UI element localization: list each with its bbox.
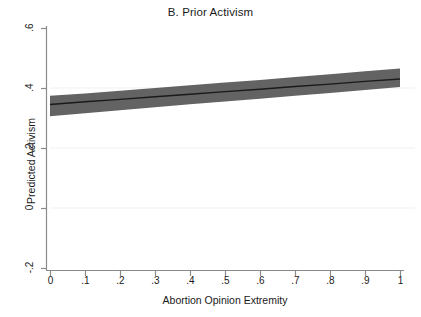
y-tick-label: .4 <box>24 75 35 101</box>
y-axis-ticks <box>41 29 47 269</box>
x-tick-label: .8 <box>319 275 343 286</box>
x-tick-label: .1 <box>74 275 98 286</box>
x-tick-label: 1 <box>389 275 413 286</box>
x-tick-label: .6 <box>249 275 273 286</box>
x-tick-label: .3 <box>144 275 168 286</box>
x-tick-label: .4 <box>179 275 203 286</box>
x-tick-label: 0 <box>39 275 63 286</box>
x-tick-label: .9 <box>354 275 378 286</box>
y-tick-label: .6 <box>24 15 35 41</box>
confidence-interval-band <box>50 69 400 117</box>
plot-area <box>0 0 421 317</box>
y-tick-label: .2 <box>24 135 35 161</box>
y-tick-label: -.2 <box>24 255 35 281</box>
y-tick-label: 0 <box>24 195 35 221</box>
x-tick-label: .5 <box>214 275 238 286</box>
x-tick-label: .2 <box>109 275 133 286</box>
figure-container: B. Prior Activism Predicted Activism Abo… <box>0 0 421 317</box>
x-tick-label: .7 <box>284 275 308 286</box>
